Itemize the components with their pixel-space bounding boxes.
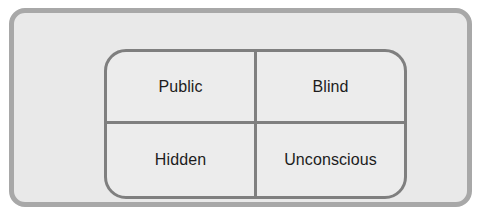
- divider-horizontal: [107, 121, 404, 124]
- quadrant-hidden-label: Hidden: [155, 152, 206, 168]
- divider-vertical: [254, 52, 257, 196]
- diagram-canvas: Public Blind Hidden Unconscious: [0, 0, 485, 222]
- quadrant-hidden[interactable]: Hidden: [107, 124, 254, 196]
- quadrant-unconscious-label: Unconscious: [284, 152, 377, 168]
- outer-frame: Public Blind Hidden Unconscious: [9, 8, 472, 207]
- quadrant-public-label: Public: [158, 79, 202, 95]
- quadrant-public[interactable]: Public: [107, 52, 254, 121]
- quadrant-unconscious[interactable]: Unconscious: [257, 124, 404, 196]
- quadrant-blind-label: Blind: [312, 79, 348, 95]
- quadrant-blind[interactable]: Blind: [257, 52, 404, 121]
- johari-window-grid: Public Blind Hidden Unconscious: [104, 49, 407, 199]
